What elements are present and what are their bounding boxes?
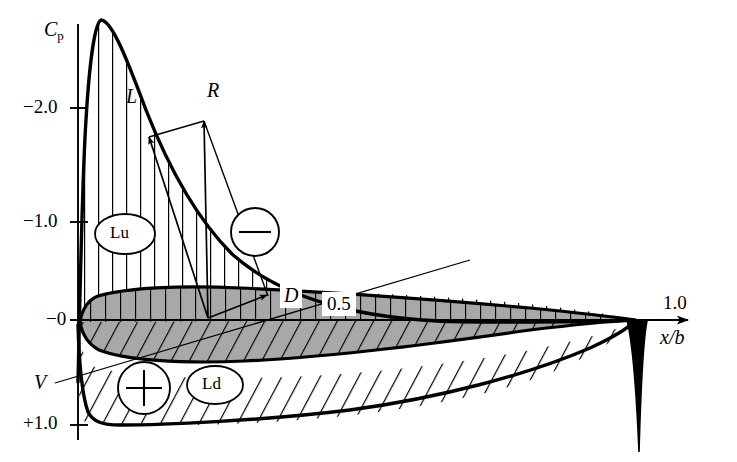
x-tick-half: 0.5: [322, 292, 356, 316]
velocity-vector-label: V: [34, 371, 46, 394]
minus-sign-circle: [231, 208, 279, 256]
plus-sign-circle: [118, 362, 170, 414]
upper-region-label: Lu: [110, 223, 129, 243]
x-axis-label: x/b: [660, 326, 684, 349]
y-axis-label: Cp: [44, 18, 64, 44]
pressure-distribution-figure: Cp −2.0 −1.0 −0 +1.0 0.5 1.0 x/b L R D V…: [0, 0, 737, 462]
trailing-edge-spike: [627, 320, 647, 452]
y-tick-minus-1: −1.0: [23, 210, 57, 232]
drag-vector-label: D: [280, 283, 302, 308]
lower-region-label: Ld: [202, 374, 221, 394]
resultant-vector-label: R: [207, 79, 219, 102]
y-tick-plus-1: +1.0: [23, 412, 57, 434]
lift-vector-label: L: [126, 85, 137, 108]
x-tick-one: 1.0: [663, 292, 687, 314]
y-tick-zero: −0: [46, 308, 66, 330]
y-axis-label-subscript: p: [57, 28, 64, 43]
y-axis-label-text: C: [44, 18, 57, 40]
y-tick-minus-2: −2.0: [23, 96, 57, 118]
